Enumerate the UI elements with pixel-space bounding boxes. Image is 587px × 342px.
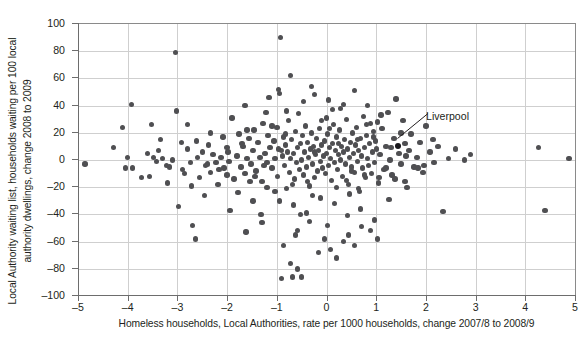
- data-point: [368, 228, 373, 233]
- data-point: [259, 220, 264, 225]
- data-point: [283, 131, 288, 136]
- data-point: [391, 136, 396, 141]
- data-point: [392, 176, 397, 181]
- y-axis-line: [78, 23, 79, 296]
- data-point: [536, 145, 541, 150]
- data-point: [274, 125, 279, 130]
- data-point: [221, 165, 226, 170]
- data-point: [149, 122, 154, 127]
- gridline-vertical: [128, 24, 129, 296]
- data-point: [242, 171, 247, 176]
- y-tick-mark: [72, 132, 78, 133]
- data-point: [403, 153, 408, 158]
- data-point: [347, 191, 352, 196]
- data-point: [216, 167, 221, 172]
- gridline-vertical: [426, 24, 427, 296]
- data-point: [156, 148, 161, 153]
- data-point: [366, 163, 371, 168]
- data-point: [263, 110, 268, 115]
- data-point: [147, 174, 152, 179]
- data-point: [387, 157, 392, 162]
- data-point: [253, 168, 258, 173]
- data-point: [189, 183, 194, 188]
- data-point: [341, 239, 346, 244]
- data-point: [229, 115, 234, 120]
- data-point: [269, 165, 274, 170]
- y-tick-mark: [72, 105, 78, 106]
- data-point: [355, 159, 360, 164]
- data-point: [362, 145, 367, 150]
- x-tick-label: –5: [72, 301, 84, 313]
- data-point: [299, 157, 304, 162]
- data-point: [396, 151, 401, 156]
- data-point: [206, 142, 211, 147]
- data-point: [325, 131, 330, 136]
- data-point: [317, 126, 322, 131]
- data-point: [197, 175, 202, 180]
- x-tick-label: 4: [522, 301, 528, 313]
- y-tick-mark: [72, 268, 78, 269]
- data-point: [542, 208, 547, 213]
- data-point: [415, 165, 420, 170]
- data-point: [359, 224, 364, 229]
- data-point: [324, 115, 329, 120]
- data-point: [195, 155, 200, 160]
- x-tick-label: –3: [171, 301, 183, 313]
- data-point: [271, 138, 276, 143]
- data-point: [329, 178, 334, 183]
- x-tick-label: 5: [572, 301, 578, 313]
- data-point: [272, 156, 277, 161]
- y-tick-label: –100: [41, 289, 65, 301]
- data-point: [154, 159, 159, 164]
- data-point: [310, 193, 315, 198]
- data-point: [316, 250, 321, 255]
- data-point: [383, 165, 388, 170]
- data-point: [285, 149, 290, 154]
- data-point: [176, 204, 181, 209]
- data-point: [375, 119, 380, 124]
- plot-area: [78, 23, 576, 296]
- data-point: [344, 117, 349, 122]
- data-point: [355, 137, 360, 142]
- data-point: [200, 149, 205, 154]
- data-point: [264, 185, 269, 190]
- y-tick-mark: [72, 159, 78, 160]
- y-axis-title-line1: Local Authority waiting list, households…: [5, 38, 20, 305]
- data-point: [566, 156, 571, 161]
- data-point: [255, 140, 260, 145]
- data-point: [243, 229, 248, 234]
- data-point: [258, 212, 263, 217]
- data-point: [345, 213, 350, 218]
- data-point: [227, 208, 232, 213]
- data-point: [158, 137, 163, 142]
- data-point: [362, 172, 367, 177]
- liverpool-annotation-label: Liverpool: [426, 110, 469, 122]
- data-point: [291, 202, 296, 207]
- data-point: [251, 127, 256, 132]
- data-point: [358, 206, 363, 211]
- data-point: [427, 149, 432, 154]
- y-tick-mark: [72, 186, 78, 187]
- x-tick-label: 0: [324, 301, 330, 313]
- data-point: [111, 145, 116, 150]
- data-point: [324, 151, 329, 156]
- data-point: [417, 140, 422, 145]
- data-point: [120, 125, 125, 130]
- data-point: [327, 126, 332, 131]
- data-point: [376, 180, 381, 185]
- data-point: [379, 126, 384, 131]
- data-point: [234, 153, 239, 158]
- data-point: [371, 134, 376, 139]
- data-point: [262, 151, 267, 156]
- data-point: [288, 261, 293, 266]
- data-point: [167, 164, 172, 169]
- data-point: [402, 141, 407, 146]
- data-point: [388, 145, 393, 150]
- data-point: [304, 164, 309, 169]
- data-point: [302, 149, 307, 154]
- data-point: [145, 151, 150, 156]
- data-point: [334, 185, 339, 190]
- data-point: [303, 123, 308, 128]
- data-point: [312, 149, 317, 154]
- data-point: [130, 165, 135, 170]
